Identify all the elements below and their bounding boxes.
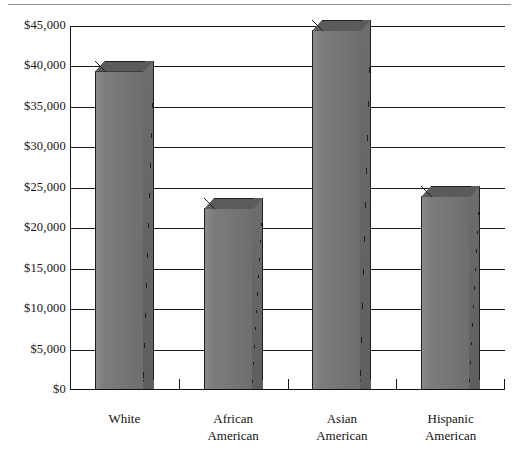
bar-front-face — [312, 30, 361, 390]
x-axis-tick — [396, 379, 397, 390]
plot-area — [70, 26, 505, 390]
bar-top-outline — [214, 198, 254, 199]
category-label-line: American — [179, 427, 288, 444]
x-axis-category-label: AsianAmerican — [288, 410, 397, 444]
bar-top-left-slant — [204, 198, 215, 209]
category-label-line: American — [396, 427, 505, 444]
y-axis-tick-label: $40,000 — [24, 59, 66, 74]
category-label-line: Hispanic — [396, 410, 505, 427]
bar-top-outline — [322, 20, 362, 21]
bar-top-left-slant — [421, 186, 432, 197]
x-axis-tick — [179, 379, 180, 390]
bar-front-face — [421, 196, 470, 390]
y-axis-tick-label: $0 — [53, 382, 66, 397]
bar-column — [312, 20, 371, 390]
category-label-line: African — [179, 410, 288, 427]
x-axis-tick-origin — [70, 379, 71, 390]
bar-top-outline — [431, 186, 471, 187]
category-label-line: White — [70, 410, 179, 427]
page-top-rule — [8, 4, 511, 5]
x-axis-tick — [504, 379, 505, 390]
bar-top-left-slant — [312, 20, 323, 31]
y-axis-tick-label: $20,000 — [24, 220, 66, 235]
bar-right-edge — [370, 20, 371, 380]
y-axis-tick-label: $45,000 — [24, 18, 66, 33]
bar-column — [204, 198, 263, 390]
bar-front-face — [204, 208, 253, 390]
y-axis-tick-label: $15,000 — [24, 261, 66, 276]
bar-column — [95, 61, 154, 391]
chart-page: $0$5,000$10,000$15,000$20,000$25,000$30,… — [0, 0, 519, 454]
y-axis-tick-label: $10,000 — [24, 301, 66, 316]
x-axis-category-label: HispanicAmerican — [396, 410, 505, 444]
bar-top-left-slant — [95, 61, 106, 72]
bar-right-edge — [153, 61, 154, 381]
y-axis-tick-label: $5,000 — [30, 342, 66, 357]
y-axis-tick-label: $25,000 — [24, 180, 66, 195]
y-axis-tick-label: $35,000 — [24, 99, 66, 114]
y-axis-tick-labels: $0$5,000$10,000$15,000$20,000$25,000$30,… — [0, 26, 66, 390]
bar-right-edge — [479, 186, 480, 380]
bar-column — [421, 186, 480, 390]
bar-top-outline — [105, 61, 145, 62]
x-axis-category-label: AfricanAmerican — [179, 410, 288, 444]
bar-front-face — [95, 71, 144, 391]
bar-right-edge — [262, 198, 263, 380]
y-axis-tick-label: $30,000 — [24, 140, 66, 155]
x-axis-tick — [288, 379, 289, 390]
category-label-line: American — [288, 427, 397, 444]
x-axis-category-label: White — [70, 410, 179, 427]
category-label-line: Asian — [288, 410, 397, 427]
